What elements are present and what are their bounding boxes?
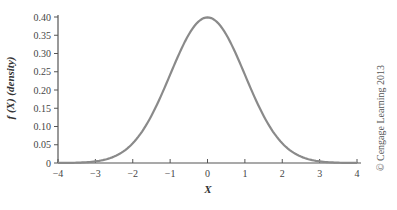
y-axis: 00.050.100.150.200.250.300.350.40: [34, 12, 59, 169]
x-axis-title: X: [203, 183, 212, 195]
x-tick-label: −3: [90, 168, 101, 179]
x-tick-label: 4: [355, 168, 360, 179]
chart: 00.050.100.150.200.250.300.350.40 −4−3−2…: [0, 0, 397, 210]
y-tick-label: 0.20: [34, 85, 52, 96]
y-tick-label: 0.35: [34, 30, 52, 41]
y-tick-label: 0.40: [34, 12, 52, 23]
x-tick-label: 3: [317, 168, 322, 179]
copyright-credit: © Cengage Learning 2013: [375, 65, 386, 171]
x-tick-label: −4: [53, 168, 64, 179]
x-tick-label: −1: [165, 168, 176, 179]
y-tick-label: 0: [46, 158, 51, 169]
x-axis: −4−3−2−101234: [53, 159, 361, 179]
x-tick-label: 2: [280, 168, 285, 179]
density-curve: [58, 17, 357, 163]
x-tick-label: 0: [205, 168, 210, 179]
y-tick-label: 0.10: [34, 121, 52, 132]
y-axis-title: f (X) (density): [4, 57, 17, 120]
y-tick-label: 0.15: [34, 103, 52, 114]
y-tick-label: 0.05: [34, 139, 52, 150]
x-tick-label: 1: [242, 168, 247, 179]
y-tick-label: 0.30: [34, 48, 52, 59]
y-tick-label: 0.25: [34, 66, 52, 77]
x-tick-label: −2: [127, 168, 138, 179]
